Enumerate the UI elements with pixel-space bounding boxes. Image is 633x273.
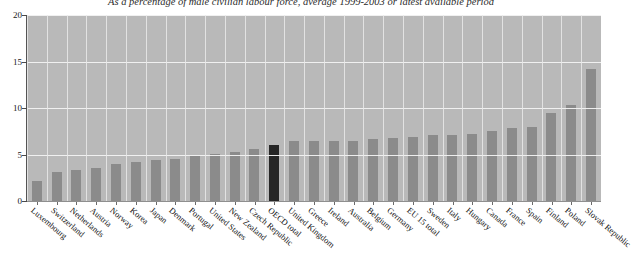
gridline-v-28 — [581, 15, 582, 201]
bar-sweden[interactable] — [428, 135, 438, 201]
x-tick-28 — [591, 202, 592, 205]
bar-greece[interactable] — [309, 141, 319, 201]
y-tick-0 — [22, 201, 27, 202]
y-tick-label-15: 15 — [13, 58, 22, 67]
gridline-v-25 — [522, 15, 523, 201]
y-tick-label-20: 20 — [13, 11, 22, 20]
x-tick-3 — [96, 202, 97, 205]
x-tick-22 — [472, 202, 473, 205]
bar-ireland[interactable] — [329, 141, 339, 201]
gridline-v-20 — [423, 15, 424, 201]
bar-slovak-republic[interactable] — [586, 69, 596, 201]
bar-portugal[interactable] — [190, 156, 200, 201]
bar-canada[interactable] — [487, 131, 497, 201]
bar-belgium[interactable] — [368, 139, 378, 201]
gridline-v-9 — [205, 15, 206, 201]
bar-france[interactable] — [507, 128, 517, 201]
gridline-v-24 — [502, 15, 503, 201]
x-tick-2 — [76, 202, 77, 205]
x-tick-19 — [413, 202, 414, 205]
gridline-v-19 — [403, 15, 404, 201]
bar-korea[interactable] — [131, 162, 141, 201]
gridline-v-12 — [265, 15, 266, 201]
gridline-v-3 — [86, 15, 87, 201]
x-tick-25 — [532, 202, 533, 205]
gridline-v-13 — [284, 15, 285, 201]
x-tick-15 — [334, 202, 335, 205]
gridline-h-5 — [27, 155, 601, 156]
x-tick-23 — [492, 202, 493, 205]
y-tick-label-10: 10 — [13, 104, 22, 113]
bar-czech-republic[interactable] — [249, 149, 259, 201]
bar-new-zealand[interactable] — [230, 152, 240, 201]
x-tick-9 — [215, 202, 216, 205]
gridline-v-8 — [185, 15, 186, 201]
bar-netherlands[interactable] — [71, 170, 81, 201]
x-tick-10 — [235, 202, 236, 205]
gridline-v-11 — [245, 15, 246, 201]
gridline-v-26 — [542, 15, 543, 201]
gridline-v-14 — [304, 15, 305, 201]
bar-oecd-total[interactable] — [269, 145, 279, 201]
x-tick-12 — [274, 202, 275, 205]
x-axis-label-ireland: Ireland — [326, 206, 350, 228]
gridline-v-5 — [126, 15, 127, 201]
bar-germany[interactable] — [388, 138, 398, 201]
bar-finland[interactable] — [546, 113, 556, 201]
bar-hungary[interactable] — [467, 134, 477, 201]
y-tick-10 — [22, 108, 27, 109]
bar-australia[interactable] — [348, 141, 358, 201]
bar-norway[interactable] — [111, 164, 121, 201]
gridline-v-1 — [47, 15, 48, 201]
bar-united-kingdom[interactable] — [289, 141, 299, 201]
x-axis-label-slovak-republic: Slovak Republic — [583, 206, 632, 249]
gridline-v-10 — [225, 15, 226, 201]
bar-japan[interactable] — [151, 160, 161, 201]
x-tick-1 — [57, 202, 58, 205]
x-tick-20 — [433, 202, 434, 205]
gridline-v-23 — [482, 15, 483, 201]
y-tick-5 — [22, 155, 27, 156]
gridline-v-22 — [462, 15, 463, 201]
x-tick-11 — [255, 202, 256, 205]
bar-eu-15-total[interactable] — [408, 137, 418, 201]
gridline-v-16 — [344, 15, 345, 201]
x-tick-18 — [393, 202, 394, 205]
bar-united-states[interactable] — [210, 154, 220, 201]
bar-austria[interactable] — [91, 168, 101, 201]
bar-luxembourg[interactable] — [32, 181, 42, 201]
gridline-v-2 — [67, 15, 68, 201]
bar-switzerland[interactable] — [52, 172, 62, 201]
x-tick-13 — [294, 202, 295, 205]
gridline-v-6 — [146, 15, 147, 201]
gridline-v-4 — [106, 15, 107, 201]
x-tick-4 — [116, 202, 117, 205]
x-tick-14 — [314, 202, 315, 205]
gridline-h-10 — [27, 108, 601, 109]
x-tick-0 — [37, 202, 38, 205]
y-tick-15 — [22, 62, 27, 63]
gridline-h-15 — [27, 62, 601, 63]
bar-spain[interactable] — [527, 127, 537, 201]
x-tick-27 — [571, 202, 572, 205]
gridline-h-20 — [27, 15, 601, 16]
gridline-v-0 — [27, 15, 28, 201]
x-axis-labels: LuxembourgSwitzerlandNetherlandsAustriaN… — [27, 202, 602, 273]
bar-denmark[interactable] — [170, 159, 180, 201]
chart-title: As a percentage of male civilian labour … — [0, 0, 602, 8]
gridline-v-27 — [561, 15, 562, 201]
x-tick-5 — [136, 202, 137, 205]
y-axis: 05101520 — [0, 0, 26, 210]
x-tick-7 — [175, 202, 176, 205]
bar-poland[interactable] — [566, 105, 576, 201]
x-axis-label-japan: Japan — [148, 206, 169, 225]
x-tick-24 — [512, 202, 513, 205]
x-tick-26 — [552, 202, 553, 205]
gridline-v-18 — [383, 15, 384, 201]
x-tick-6 — [156, 202, 157, 205]
plot-area — [27, 15, 601, 201]
x-tick-16 — [354, 202, 355, 205]
bar-italy[interactable] — [447, 135, 457, 201]
x-tick-21 — [453, 202, 454, 205]
